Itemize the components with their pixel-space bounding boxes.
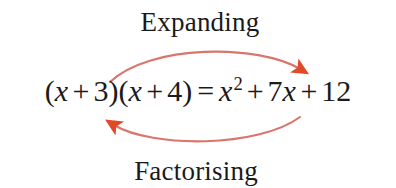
equals-sign: = <box>192 74 219 107</box>
plus-sign-3: + <box>243 74 268 107</box>
expanding-factorising-diagram: Expanding (x+3)(x+4)=x2+7x+12 Factorisin… <box>0 0 396 188</box>
close-paren-2: ) <box>182 74 192 107</box>
equation: (x+3)(x+4)=x2+7x+12 <box>0 76 396 106</box>
variable-x-2: x <box>128 74 142 107</box>
exponent-2: 2 <box>233 73 242 94</box>
constant-4: 4 <box>167 74 182 107</box>
variable-x-4: x <box>283 74 297 107</box>
open-paren-2: ( <box>118 74 128 107</box>
plus-sign-2: + <box>142 74 167 107</box>
expanding-label: Expanding <box>2 9 396 36</box>
open-paren-1: ( <box>45 74 55 107</box>
plus-sign-1: + <box>68 74 93 107</box>
coefficient-7: 7 <box>268 74 283 107</box>
close-paren-1: ) <box>108 74 118 107</box>
plus-sign-4: + <box>296 74 321 107</box>
constant-12: 12 <box>321 74 351 107</box>
variable-x-1: x <box>55 74 69 107</box>
factorising-label: Factorising <box>0 158 394 185</box>
variable-x-3: x <box>219 74 233 107</box>
constant-3: 3 <box>93 74 108 107</box>
factorising-arrow <box>114 117 300 141</box>
